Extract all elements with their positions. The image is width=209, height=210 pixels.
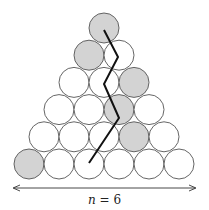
- circle: [104, 149, 134, 179]
- shaded-circle: [14, 149, 44, 179]
- circle-triangle: [0, 0, 209, 210]
- width-arrow: [13, 185, 196, 191]
- circle: [104, 40, 134, 70]
- n-label: n = 6: [0, 193, 209, 207]
- circle: [74, 95, 104, 125]
- n-variable: n: [88, 193, 96, 207]
- circle: [74, 149, 104, 179]
- shaded-circle: [74, 40, 104, 70]
- circle: [134, 95, 164, 125]
- shaded-circle: [104, 95, 134, 125]
- triangle-packing-diagram: n = 6: [0, 0, 209, 210]
- n-value: = 6: [96, 193, 121, 207]
- circle: [59, 67, 89, 97]
- circle: [134, 149, 164, 179]
- shaded-circle: [89, 13, 119, 43]
- circle: [164, 149, 194, 179]
- shaded-circle: [119, 122, 149, 152]
- circle: [59, 122, 89, 152]
- circle: [149, 122, 179, 152]
- shaded-circle: [119, 67, 149, 97]
- circle: [29, 122, 59, 152]
- circle: [44, 95, 74, 125]
- circle: [44, 149, 74, 179]
